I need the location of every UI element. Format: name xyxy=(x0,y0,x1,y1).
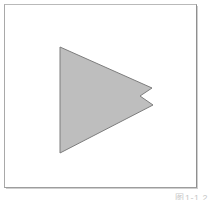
figure-container: 图1-1.2 xyxy=(0,0,212,200)
frame-shadow-right xyxy=(197,6,198,189)
frame-shadow-bottom xyxy=(6,188,198,189)
notched-right-arrow-shape xyxy=(60,47,153,153)
figure-drawing-area xyxy=(4,4,197,188)
figure-caption: 图1-1.2 xyxy=(175,193,208,200)
